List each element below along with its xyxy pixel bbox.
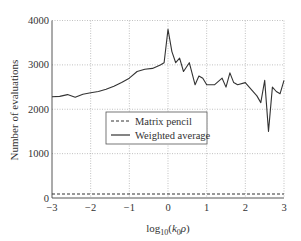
x-axis-label: log10(k0ρ)	[146, 222, 190, 237]
y-tick-label: 3000	[28, 59, 49, 70]
y-tick-label: 4000	[28, 15, 49, 26]
x-tick-label: −1	[124, 202, 135, 213]
legend: Matrix pencil Weighted average	[106, 112, 211, 144]
x-tick-label: 2	[243, 202, 248, 213]
x-axis-ticks: −3−2−10123	[46, 202, 286, 213]
x-tick-label: −2	[85, 202, 96, 213]
y-axis-label: Number of evaluations	[8, 60, 20, 161]
y-tick-label: 1000	[28, 148, 49, 159]
y-tick-label: 0	[44, 193, 49, 204]
x-label-log: log	[146, 222, 161, 234]
x-tick-label: 1	[204, 202, 209, 213]
y-tick-label: 2000	[28, 104, 49, 115]
grid-lines	[52, 21, 284, 199]
chart: −3−2−10123 01000200030004000 Matrix penc…	[0, 0, 301, 241]
x-tick-label: −3	[46, 202, 57, 213]
x-tick-label: 3	[281, 202, 286, 213]
legend-label-matrix-pencil: Matrix pencil	[135, 116, 192, 127]
y-axis-ticks: 01000200030004000	[28, 15, 49, 204]
legend-label-weighted-average: Weighted average	[135, 130, 211, 141]
x-label-log-sub: 10	[160, 228, 168, 237]
x-label-close-paren: )	[186, 222, 190, 235]
x-tick-label: 0	[165, 202, 170, 213]
